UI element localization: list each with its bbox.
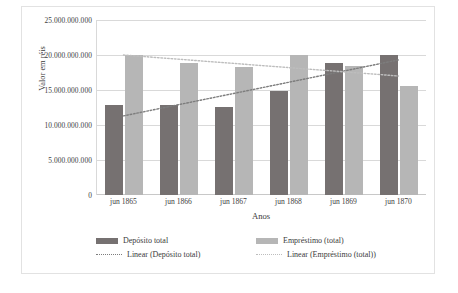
legend-swatch-icon [96,238,118,244]
bar [125,55,143,195]
x-tick-label: jun 1866 [151,197,206,206]
legend-item-linear-emprestimo-total: Linear (Empréstimo (total)) [256,250,416,259]
legend-item-emprestimo-total: Empréstimo (total) [256,236,416,245]
bar [400,86,418,195]
bar [160,105,178,195]
bar [290,55,308,195]
legend-swatch-icon [256,238,278,244]
legend-label: Linear (Depósito total) [127,250,200,259]
bar [180,63,198,195]
chart-legend: Depósito total Empréstimo (total) Linear… [96,236,416,259]
y-tick-label: 0 [88,191,92,200]
x-tick-label: jun 1869 [316,197,371,206]
bar [270,91,288,195]
x-tick-label: jun 1868 [261,197,316,206]
x-axis-title: Anos [96,211,426,221]
bar-group [371,20,426,195]
bar-group [151,20,206,195]
bar-groups [96,20,426,195]
bar [105,105,123,195]
y-tick-label: 15.000.000.000 [44,86,92,95]
legend-item-linear-deposito-total: Linear (Depósito total) [96,250,256,259]
x-tick-label: jun 1870 [371,197,426,206]
legend-label: Linear (Empréstimo (total)) [287,250,376,259]
x-tick-label: jun 1865 [96,197,151,206]
bar-group [96,20,151,195]
legend-dotted-line-icon [256,254,282,255]
y-tick-label: 25.000.000.000 [44,16,92,25]
x-tick-label: jun 1867 [206,197,261,206]
bar-group [261,20,316,195]
y-tick-label: 5.000.000.000 [48,156,92,165]
legend-label: Depósito total [123,236,168,245]
y-axis-tick-labels: 25.000.000.000 20.000.000.000 15.000.000… [22,20,92,195]
bar-group [206,20,261,195]
y-tick-label: 20.000.000.000 [44,51,92,60]
bar [215,107,233,195]
bar-group [316,20,371,195]
legend-dotted-line-icon [96,254,122,255]
legend-label: Empréstimo (total) [283,236,344,245]
bar [345,66,363,195]
bar [380,55,398,195]
y-tick-label: 10.000.000.000 [44,121,92,130]
chart-container: Valor em réis 25.000.000.000 20.000.000.… [0,0,458,293]
bar [235,67,253,195]
legend-item-deposito-total: Depósito total [96,236,256,245]
bar [325,63,343,195]
x-axis-tick-labels: jun 1865 jun 1866 jun 1867 jun 1868 jun … [96,197,426,206]
